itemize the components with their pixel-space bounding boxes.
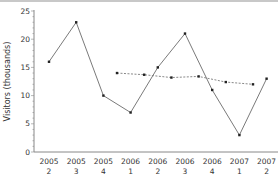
- x-tick-label-quarter: 4: [101, 167, 106, 176]
- x-tick-label-quarter: 4: [210, 167, 215, 176]
- data-point-marker: [197, 75, 199, 77]
- x-tick-label-quarter: 2: [155, 167, 160, 176]
- labels-group: 0510152025Visitors (thousands)2005220053…: [3, 7, 276, 177]
- data-point-marker: [48, 61, 50, 63]
- data-point-marker: [75, 21, 77, 23]
- axes: [31, 10, 278, 152]
- y-tick-label: 10: [20, 91, 30, 100]
- x-tick-label-quarter: 1: [128, 167, 133, 176]
- data-point-marker: [184, 32, 186, 34]
- x-tick-label-year: 2006: [148, 157, 167, 166]
- data-point-marker: [129, 111, 131, 113]
- data-point-marker: [143, 74, 145, 76]
- x-tick-label-year: 2006: [175, 157, 194, 166]
- series-group: [48, 21, 268, 136]
- y-tick-label: 25: [20, 7, 30, 16]
- data-point-marker: [225, 81, 227, 83]
- data-point-marker: [211, 89, 213, 91]
- y-tick-label: 0: [25, 148, 30, 157]
- y-tick-label: 20: [20, 35, 30, 44]
- data-point-marker: [157, 66, 159, 68]
- x-tick-label-quarter: 3: [183, 167, 188, 176]
- visitors-line: [49, 22, 267, 135]
- data-point-marker: [102, 94, 104, 96]
- x-tick-label-quarter: 2: [47, 167, 52, 176]
- x-tick-label-quarter: 3: [74, 167, 79, 176]
- data-point-marker: [252, 83, 254, 85]
- x-tick-label-year: 2005: [94, 157, 113, 166]
- data-point-marker: [238, 134, 240, 136]
- x-tick-label-year: 2006: [121, 157, 140, 166]
- x-tick-label-year: 2007: [257, 157, 276, 166]
- x-tick-label-quarter: 2: [264, 167, 269, 176]
- y-tick-label: 15: [20, 63, 30, 72]
- x-tick-label-quarter: 1: [237, 167, 242, 176]
- y-tick-label: 5: [25, 119, 30, 128]
- x-tick-label-year: 2005: [67, 157, 86, 166]
- x-tick-label-year: 2007: [230, 157, 249, 166]
- y-axis-title: Visitors (thousands): [3, 42, 12, 122]
- line-chart: 0510152025Visitors (thousands)2005220053…: [0, 0, 278, 179]
- data-point-marker: [116, 72, 118, 74]
- data-point-marker: [170, 76, 172, 78]
- data-point-marker: [265, 77, 267, 79]
- moving-average-line: [117, 73, 253, 84]
- x-tick-label-year: 2005: [39, 157, 58, 166]
- x-tick-label-year: 2006: [203, 157, 222, 166]
